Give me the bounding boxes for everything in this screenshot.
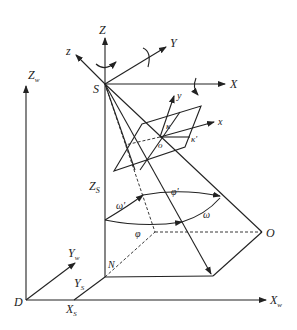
label-Xw: Xw: [269, 293, 282, 309]
label-phi: φ: [135, 228, 141, 239]
ray-s-corner: [105, 84, 211, 274]
phi-arc: [105, 220, 182, 225]
z-small-axis: [76, 55, 105, 84]
label-x: x: [217, 116, 223, 127]
photogrammetry-coordinate-diagram: Z X Y z S y x o κ κ' ZS ω' φ' ω φ O N Zw…: [0, 0, 297, 330]
ground-line: [105, 276, 213, 277]
label-Zs: ZS: [89, 179, 100, 195]
rot-z-icon: [96, 62, 116, 68]
label-N: N: [107, 259, 116, 270]
label-Ys: YS: [74, 276, 85, 292]
label-O: O: [266, 226, 275, 240]
y-axis-s: [105, 47, 166, 84]
label-Xs: XS: [65, 302, 77, 318]
dashed-plane: [125, 137, 160, 145]
label-o: o: [158, 140, 163, 150]
label-Y: Y: [170, 36, 178, 50]
label-D: D: [13, 295, 23, 309]
label-Z: Z: [99, 23, 106, 37]
rot-x-icon: [194, 78, 198, 95]
yw-axis: [26, 263, 75, 300]
label-omega-prime: ω': [116, 200, 126, 211]
ground-diag: [213, 232, 262, 276]
label-kappa: κ: [166, 121, 171, 131]
label-omega: ω: [203, 209, 210, 220]
label-z: z: [65, 44, 71, 58]
dashed-n: [105, 232, 155, 277]
label-phi-prime: φ': [171, 186, 180, 197]
label-Zw: Zw: [28, 68, 40, 84]
label-Yw: Yw: [68, 246, 80, 262]
label-y: y: [176, 90, 182, 101]
label-X: X: [229, 77, 238, 91]
label-S: S: [93, 82, 99, 96]
phi-prime-arc: [143, 192, 220, 196]
diagram-canvas: Z X Y z S y x o κ κ' ZS ω' φ' ω φ O N Zw…: [0, 0, 297, 330]
ray-s-o: [105, 84, 262, 232]
image-plane: [114, 106, 201, 171]
label-kappa-prime: κ': [191, 134, 198, 144]
omega-arc: [182, 198, 220, 222]
